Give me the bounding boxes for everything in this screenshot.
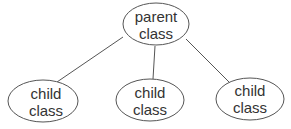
node-label-line2: class xyxy=(139,25,173,42)
node-child-class-3: child class xyxy=(216,78,284,120)
node-label-line2: class xyxy=(29,102,63,119)
node-label-line1: child xyxy=(31,85,62,102)
edge-parent-child3 xyxy=(186,39,230,83)
class-hierarchy-diagram: parent class child class child class chi… xyxy=(0,0,291,129)
node-parent-class: parent class xyxy=(123,3,189,45)
edge-parent-child2 xyxy=(153,46,155,79)
node-child-class-2: child class xyxy=(116,79,184,121)
node-label-line1: child xyxy=(135,84,166,101)
node-label-line1: child xyxy=(235,82,266,99)
node-label-line2: class xyxy=(133,101,167,118)
node-child-class-1: child class xyxy=(8,80,78,122)
node-label-line1: parent xyxy=(135,8,178,25)
node-label-line2: class xyxy=(233,99,267,116)
edge-parent-child1 xyxy=(57,37,123,82)
